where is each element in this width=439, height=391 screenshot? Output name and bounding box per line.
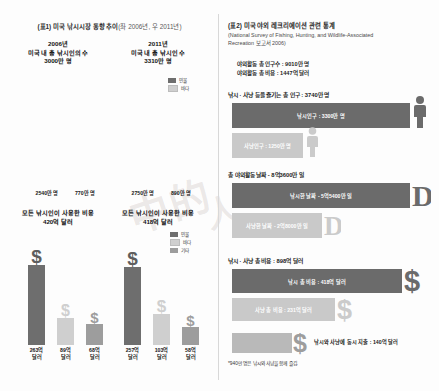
days-icon: D bbox=[324, 211, 341, 243]
svg-text:$: $ bbox=[337, 295, 352, 323]
value-line-1: 257억 bbox=[117, 347, 148, 354]
section3-heading: 낚시 · 사냥 총 비용 : 898억 달러 bbox=[228, 256, 303, 265]
svg-text:$: $ bbox=[293, 330, 307, 356]
chart2-label-2006-freshwater: 263억 달러 bbox=[21, 347, 52, 361]
dollar-icon: $ bbox=[337, 295, 355, 327]
value-line-2: 달러 bbox=[50, 354, 81, 361]
value-line-1: 68억 bbox=[79, 347, 110, 354]
dollar-icon-svg: $ bbox=[404, 266, 423, 296]
chart2-label-2006-other: 68억 달러 bbox=[79, 347, 110, 361]
value-line-1: 263억 bbox=[21, 347, 52, 354]
right-panel-footnote: *940만 명은 낚시와 사냥을 함께 즐김. bbox=[228, 360, 298, 367]
dollar-icon: $ bbox=[293, 330, 309, 360]
value-line-1: 89억 bbox=[50, 347, 81, 354]
section3-bar-hunting-cost: 사냥 총 비용 : 231억 달러 bbox=[232, 298, 335, 321]
chart2-bar-2006-saltwater: $ bbox=[57, 318, 74, 345]
section2-heading: 총 야외활동 날짜 - 8억3600만 일 bbox=[228, 170, 304, 179]
right-stat-expenditure: 야외활동 총 비용 : 1447억 달러 bbox=[237, 69, 309, 77]
dollar-icon: $ bbox=[186, 313, 194, 328]
section2-bar-hunting-days-label: 사냥한 날짜 - 2억8000만 일 bbox=[246, 222, 308, 229]
left-panel: (표1) 미국 낚시시장 동향 추이(좌 2006년, 우 2011년) 200… bbox=[0, 0, 219, 391]
dollar-icon: $ bbox=[157, 298, 166, 315]
chart2-bar-2006-freshwater: $ bbox=[28, 265, 45, 345]
dollar-icon: $ bbox=[61, 303, 70, 319]
days-icon-svg: D bbox=[412, 180, 431, 211]
chart2-label-2006-saltwater: 89억 달러 bbox=[50, 347, 81, 361]
svg-text:D: D bbox=[324, 211, 341, 239]
section3-bar-fishing-cost: 낚시 총 비용 : 418억 달러 bbox=[232, 269, 402, 293]
value-line-2: 달러 bbox=[21, 354, 52, 361]
section2-bar-hunting-days: 사냥한 날짜 - 2억8000만 일 bbox=[232, 213, 322, 238]
chart2-bar-2011-other: $ bbox=[182, 327, 199, 345]
person-icon-svg bbox=[413, 95, 427, 128]
combined-spend-bar bbox=[232, 333, 292, 353]
right-panel-subtitle-line2: Recreation 보고서 2006) bbox=[228, 39, 435, 47]
chart2-label-2011-freshwater: 257억 달러 bbox=[117, 347, 148, 361]
chart2-label-2011-saltwater: 103억 달러 bbox=[146, 347, 177, 361]
chart2-bar-2011-freshwater: $ bbox=[124, 267, 141, 345]
right-panel: (표2) 미국 야외 레크리에이션 관련 통계 (National Survey… bbox=[219, 0, 439, 391]
chart2-bar-2006-other: $ bbox=[86, 324, 103, 345]
chart2-label-2011-other: 58억 달러 bbox=[175, 347, 206, 361]
svg-text:D: D bbox=[412, 180, 431, 211]
value-line-2: 달러 bbox=[117, 354, 148, 361]
dollar-icon: $ bbox=[31, 247, 42, 266]
dollar-icon: $ bbox=[90, 310, 98, 325]
section2-bar-fishing-days: 낚시한 날짜 - 5억5400만 일 bbox=[232, 183, 410, 208]
person-icon-svg bbox=[306, 126, 319, 157]
value-line-1: 103억 bbox=[146, 347, 177, 354]
section1-bar-hunting-label: 사냥인구 : 1250만 명 bbox=[244, 142, 292, 149]
section1-heading: 낚시 · 사냥 등을 즐기는 총 인구 : 3740만 명 bbox=[228, 90, 329, 99]
dollar-icon: $ bbox=[404, 266, 423, 300]
right-panel-title: (표2) 미국 야외 레크리에이션 관련 통계 bbox=[228, 21, 433, 30]
right-panel-subtitle-line1: (National Survey of Fishing, Hunting, an… bbox=[228, 31, 435, 39]
section3-bar-hunting-cost-label: 사냥 총 비용 : 231억 달러 bbox=[255, 306, 313, 313]
section2-bar-fishing-days-label: 낚시한 날짜 - 5억5400만 일 bbox=[290, 192, 352, 199]
days-icon-svg: D bbox=[324, 211, 341, 239]
right-stat-population: 야외활동 총 인구수 : 9010만 명 bbox=[237, 60, 309, 68]
section1-bar-fishing: 낚시인구 : 3300만 명 bbox=[232, 103, 410, 128]
days-icon: D bbox=[412, 180, 431, 215]
combined-spend-note: 낚시와 사냥에 동시 지출 : 140억 달러 bbox=[314, 339, 398, 346]
value-line-2: 달러 bbox=[146, 354, 177, 361]
person-icon bbox=[413, 95, 427, 132]
section1-bar-hunting: 사냥인구 : 1250만 명 bbox=[232, 133, 303, 158]
infographic-page: 中的 人 (표1) 미국 낚시시장 동향 추이(좌 2006년, 우 2011년… bbox=[0, 0, 439, 391]
person-icon bbox=[306, 126, 319, 161]
value-line-2: 달러 bbox=[79, 354, 110, 361]
dollar-icon: $ bbox=[127, 249, 138, 268]
chart2-bar-2011-saltwater: $ bbox=[153, 314, 170, 345]
value-line-2: 달러 bbox=[175, 354, 206, 361]
section3-bar-fishing-cost-label: 낚시 총 비용 : 418억 달러 bbox=[288, 278, 346, 285]
value-line-1: 58억 bbox=[175, 347, 206, 354]
dollar-icon-svg: $ bbox=[337, 295, 355, 323]
section1-bar-fishing-label: 낚시인구 : 3300만 명 bbox=[297, 112, 345, 119]
chart2-plot-area: $ 263억 달러 $ 89억 달러 $ 68억 bbox=[0, 0, 219, 391]
dollar-icon-svg: $ bbox=[293, 330, 309, 356]
svg-text:$: $ bbox=[404, 266, 420, 296]
